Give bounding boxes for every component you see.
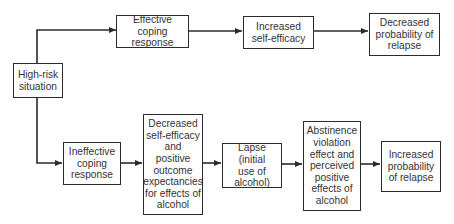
node-text: probability of xyxy=(376,29,434,41)
node-text: Increased xyxy=(388,149,434,161)
node-text: Lapse (initial xyxy=(225,142,279,165)
node-text: effects of xyxy=(307,183,357,195)
node-text: Abstinence xyxy=(307,125,357,137)
node-decreased-probability-of-relapse: Decreased probability of relapse xyxy=(369,13,440,56)
node-text: expectancies xyxy=(143,176,202,188)
node-text: situation xyxy=(18,81,58,93)
node-text: coping xyxy=(69,158,115,170)
node-lapse-initial-use-of-alcohol: Lapse (initial use of alcohol) xyxy=(222,143,282,188)
node-text: violation xyxy=(307,137,357,149)
node-text: response xyxy=(69,169,115,181)
arrow-high-risk-to-ineffective xyxy=(37,97,62,163)
node-text: and xyxy=(143,141,202,153)
node-text: use of xyxy=(225,166,279,178)
node-text: alcohol) xyxy=(225,177,279,189)
node-ineffective-coping-response: Ineffective coping response xyxy=(63,142,121,185)
node-text: perceived xyxy=(307,160,357,172)
node-increased-probability-of-relapse: Increased probability of relapse xyxy=(381,141,441,192)
node-text: High-risk xyxy=(18,69,58,81)
node-text: self-efficacy xyxy=(143,130,202,142)
node-text: positive xyxy=(307,172,357,184)
node-text: Decreased xyxy=(143,118,202,130)
node-text: for effects of xyxy=(143,188,202,200)
node-text: probability xyxy=(388,161,434,173)
node-text: outcome xyxy=(143,165,202,177)
node-text: alcohol xyxy=(143,199,202,211)
node-text: Ineffective xyxy=(69,146,115,158)
arrow-high-risk-to-effective xyxy=(37,30,116,63)
node-text: self-efficacy xyxy=(252,33,306,45)
node-increased-self-efficacy: Increased self-efficacy xyxy=(243,16,314,49)
node-effective-coping-response: Effective coping response xyxy=(116,15,189,48)
node-text: response xyxy=(119,37,186,49)
node-high-risk-situation: High-risk situation xyxy=(13,63,63,98)
node-abstinence-violation-effect: Abstinence violation effect and perceive… xyxy=(303,121,361,211)
node-text: of relapse xyxy=(388,172,434,184)
node-text: positive xyxy=(143,153,202,165)
node-text: relapse xyxy=(376,40,434,52)
node-decreased-self-efficacy-and-positive-expectancies: Decreased self-efficacy and positive out… xyxy=(143,114,203,215)
node-text: effect and xyxy=(307,149,357,161)
node-text: Increased xyxy=(252,21,306,33)
node-text: alcohol xyxy=(307,195,357,207)
node-text: Decreased xyxy=(376,17,434,29)
node-text: Effective coping xyxy=(119,14,186,37)
